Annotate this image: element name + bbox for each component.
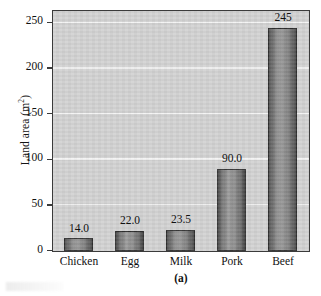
x-tick-label-beef: Beef	[248, 255, 318, 267]
bar-chart-figure: Land area (m2) (a) 14.0Chicken22.0Egg23.…	[0, 0, 321, 296]
y-tick-label-150: 150	[0, 106, 43, 118]
bar-egg	[115, 231, 144, 251]
bar-beef	[268, 28, 297, 251]
y-axis-title-suffix: )	[19, 95, 31, 99]
y-axis-tick	[47, 204, 52, 206]
y-axis-title-superscript: 2	[17, 99, 26, 103]
bar-pork	[217, 169, 246, 251]
y-tick-label-200: 200	[0, 60, 43, 72]
bar-value-label-pork: 90.0	[202, 152, 262, 164]
y-axis-tick	[47, 159, 52, 161]
y-tick-label-50: 50	[0, 197, 43, 209]
y-tick-label-100: 100	[0, 151, 43, 163]
y-tick-label-250: 250	[0, 14, 43, 26]
y-axis-tick	[47, 113, 52, 115]
y-axis-tick	[47, 250, 52, 252]
bar-value-label-beef: 245	[253, 11, 313, 23]
y-axis-tick	[47, 67, 52, 69]
bar-value-label-milk: 23.5	[151, 213, 211, 225]
bar-milk	[166, 230, 195, 251]
figure-caption: (a)	[52, 272, 310, 284]
y-axis-tick	[47, 22, 52, 24]
bar-chicken	[64, 238, 93, 251]
y-tick-label-0: 0	[0, 243, 43, 255]
